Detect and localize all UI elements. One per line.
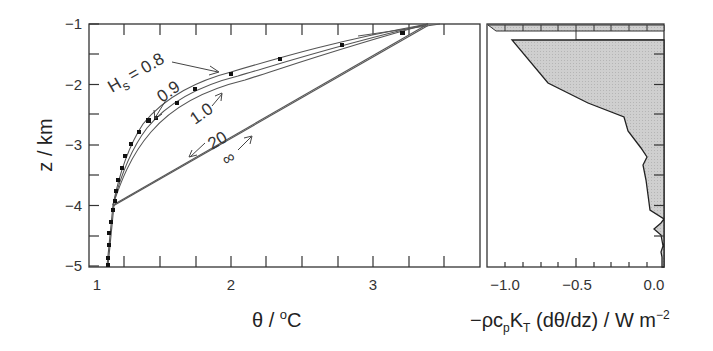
- annot-hs-1.0: 1.0: [186, 99, 216, 128]
- right-x-tick-labels: −1.0 −0.5 0.0: [490, 276, 664, 293]
- left-y-ticks: [89, 24, 99, 266]
- y-tick-2: −2: [65, 76, 82, 93]
- y-tick-3: −3: [65, 136, 82, 153]
- right-x-tick-neg1: −1.0: [490, 276, 520, 293]
- x-axis-title-left: θ / oC: [252, 307, 301, 331]
- right-x-tick-neg05: −0.5: [562, 276, 592, 293]
- left-x-tick-labels: 1 2 3: [93, 276, 377, 293]
- x-tick-1: 1: [93, 276, 101, 293]
- y-tick-5: −5: [65, 257, 82, 274]
- right-x-tick-0: 0.0: [644, 276, 665, 293]
- y-tick-4: −4: [65, 197, 82, 214]
- figure: −1 −2 −3 −4 −5 1 2 3 z / km θ / oC: [0, 0, 713, 351]
- y-tick-1: −1: [65, 15, 82, 32]
- left-x-ticks: [124, 24, 444, 267]
- left-panel: −1 −2 −3 −4 −5 1 2 3 z / km θ / oC: [34, 15, 480, 331]
- flux-area: [512, 40, 664, 267]
- annot-hs-0.9: 0.9: [153, 77, 183, 106]
- right-panel: −1.0 −0.5 0.0 −ρcpKT (dθ/dz) / W m−2: [470, 24, 670, 335]
- top-flux-strip: [488, 25, 664, 40]
- annotations: Hs = 0.8 0.9 1.0 20 ∞: [105, 49, 253, 169]
- left-y-tick-labels: −1 −2 −3 −4 −5: [65, 15, 82, 274]
- x-axis-title-right: −ρcpKT (dθ/dz) / W m−2: [470, 308, 670, 335]
- x-tick-3: 3: [369, 276, 377, 293]
- right-x-ticks: [505, 258, 647, 267]
- x-tick-2: 2: [227, 276, 235, 293]
- annot-hs-inf: ∞: [219, 147, 239, 170]
- y-axis-title: z / km: [34, 118, 56, 171]
